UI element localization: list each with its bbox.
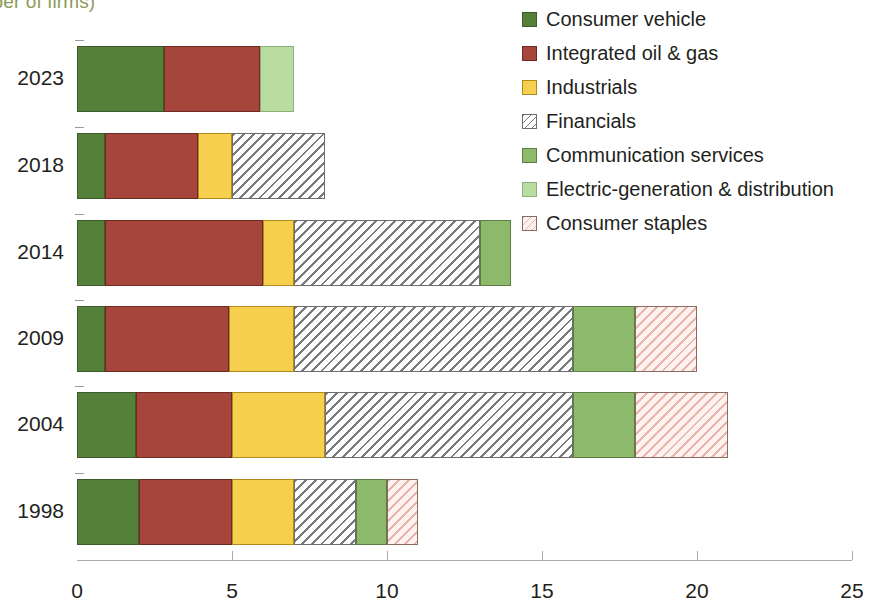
bar-group-2004 (77, 392, 728, 458)
bar-segment-staples-2004 (635, 392, 728, 458)
bar-segment-oil-2009 (105, 306, 229, 372)
row-tick-2018 (75, 127, 84, 128)
bar-segment-oil-2018 (105, 133, 198, 199)
bar-segment-cv-2023 (77, 46, 164, 112)
legend-swatch-oil-icon (522, 46, 537, 61)
row-tick-1998 (75, 473, 84, 474)
bar-segment-fin-2014 (294, 220, 480, 286)
row-tick-2009 (75, 300, 84, 301)
bar-segment-cv-2009 (77, 306, 105, 372)
bar-segment-fin-2018 (232, 133, 325, 199)
x-tick-label-25: 25 (822, 579, 870, 603)
bar-group-2023 (77, 46, 294, 112)
y-axis-label-2009: 2009 (2, 326, 64, 350)
bar-group-2018 (77, 133, 325, 199)
row-tick-2014 (75, 214, 84, 215)
bar-segment-fin-1998 (294, 479, 356, 545)
bar-segment-staples-1998 (387, 479, 418, 545)
bar-segment-elec-2023 (260, 46, 294, 112)
y-axis-label-2004: 2004 (2, 412, 64, 436)
x-tick-20 (697, 551, 698, 560)
legend-label-fin: Financials (546, 110, 636, 133)
row-tick-2004 (75, 386, 84, 387)
bar-segment-fin-2009 (294, 306, 573, 372)
x-tick-10 (387, 551, 388, 560)
legend-label-cv: Consumer vehicle (546, 8, 706, 31)
bar-group-2014 (77, 220, 511, 286)
x-tick-15 (542, 551, 543, 560)
bar-group-1998 (77, 479, 418, 545)
bar-group-2009 (77, 306, 697, 372)
bar-segment-comm-2014 (480, 220, 511, 286)
bar-segment-oil-2014 (105, 220, 263, 286)
legend-label-elec: Electric-generation & distribution (546, 178, 834, 201)
y-axis-label-2023: 2023 (2, 66, 64, 90)
bar-segment-comm-2009 (573, 306, 635, 372)
bar-segment-cv-2014 (77, 220, 105, 286)
bar-segment-comm-1998 (356, 479, 387, 545)
legend-swatch-staples-icon (522, 216, 537, 231)
legend-item-cv[interactable]: Consumer vehicle (522, 2, 870, 36)
y-axis-label-2018: 2018 (2, 153, 64, 177)
x-tick-label-10: 10 (357, 579, 417, 603)
legend-swatch-comm-icon (522, 148, 537, 163)
x-tick-label-20: 20 (667, 579, 727, 603)
legend-item-ind[interactable]: Industrials (522, 70, 870, 104)
legend-label-comm: Communication services (546, 144, 764, 167)
bar-segment-oil-2004 (136, 392, 232, 458)
legend-item-staples[interactable]: Consumer staples (522, 206, 870, 240)
x-tick-label-0: 0 (47, 579, 107, 603)
legend-swatch-fin-icon (522, 114, 537, 129)
bar-segment-ind-1998 (232, 479, 294, 545)
legend-swatch-elec-icon (522, 182, 537, 197)
legend-item-oil[interactable]: Integrated oil & gas (522, 36, 870, 70)
x-axis-line (77, 560, 852, 561)
bar-segment-cv-2004 (77, 392, 136, 458)
y-axis-label-2014: 2014 (2, 240, 64, 264)
bar-segment-comm-2004 (573, 392, 635, 458)
bar-segment-ind-2014 (263, 220, 294, 286)
x-tick-25 (852, 551, 853, 560)
legend-item-fin[interactable]: Financials (522, 104, 870, 138)
x-tick-5 (232, 551, 233, 560)
legend-item-elec[interactable]: Electric-generation & distribution (522, 172, 870, 206)
bar-segment-staples-2009 (635, 306, 697, 372)
row-tick-2023 (75, 40, 84, 41)
y-axis-label-1998: 1998 (2, 499, 64, 523)
bar-segment-oil-2023 (164, 46, 260, 112)
x-tick-label-15: 15 (512, 579, 572, 603)
bar-segment-oil-1998 (139, 479, 232, 545)
legend-label-oil: Integrated oil & gas (546, 42, 718, 65)
bar-segment-ind-2018 (198, 133, 232, 199)
bar-segment-ind-2009 (229, 306, 294, 372)
x-tick-label-5: 5 (202, 579, 262, 603)
legend-label-ind: Industrials (546, 76, 637, 99)
bar-segment-ind-2004 (232, 392, 325, 458)
legend-item-comm[interactable]: Communication services (522, 138, 870, 172)
legend-label-staples: Consumer staples (546, 212, 707, 235)
bar-segment-cv-2018 (77, 133, 105, 199)
legend-swatch-ind-icon (522, 80, 537, 95)
legend-swatch-cv-icon (522, 12, 537, 27)
bar-segment-cv-1998 (77, 479, 139, 545)
chart-legend: Consumer vehicleIntegrated oil & gasIndu… (522, 2, 870, 240)
bar-segment-fin-2004 (325, 392, 573, 458)
